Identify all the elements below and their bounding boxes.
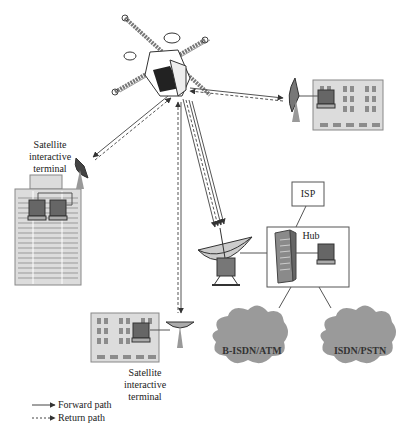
terminal-bottom-label: Satellite interactive terminal xyxy=(115,367,175,403)
legend-return: Return path xyxy=(58,412,105,423)
left-terminal-building xyxy=(15,175,81,285)
legend-forward-label: Forward path xyxy=(58,399,112,410)
terminal-left-label-line3: terminal xyxy=(20,163,80,175)
terminal-left-label-line1: Satellite xyxy=(20,139,80,151)
link-satellite-right-terminal xyxy=(190,88,283,101)
bottom-terminal-building xyxy=(91,313,170,362)
link-satellite-hub xyxy=(183,99,224,227)
terminal-left-label-line2: interactive xyxy=(20,151,80,163)
terminal-bottom-label-line1: Satellite xyxy=(115,367,175,379)
terminal-left-label: Satellite interactive terminal xyxy=(20,139,80,175)
isp-label: ISP xyxy=(292,188,324,200)
legend-return-label: Return path xyxy=(58,412,105,423)
satellite-icon xyxy=(112,15,210,96)
hub-dish-icon xyxy=(198,228,268,285)
legend-forward: Forward path xyxy=(58,399,112,410)
link-satellite-left-terminal xyxy=(93,96,171,160)
terminal-bottom-label-line2: interactive xyxy=(115,379,175,391)
bottom-terminal-dish-icon xyxy=(166,322,194,348)
terminal-bottom-label-line3: terminal xyxy=(115,391,175,403)
cloud-b-isdn-atm-label: B-ISDN/ATM xyxy=(212,345,292,356)
satellite-network-diagram xyxy=(0,0,407,429)
link-satellite-bottom-terminal xyxy=(178,102,181,313)
right-terminal-dish-icon xyxy=(289,78,300,122)
right-terminal-building xyxy=(298,80,383,130)
hub-label: Hub xyxy=(300,230,322,242)
cloud-isdn-pstn-label: ISDN/PSTN xyxy=(320,345,400,356)
